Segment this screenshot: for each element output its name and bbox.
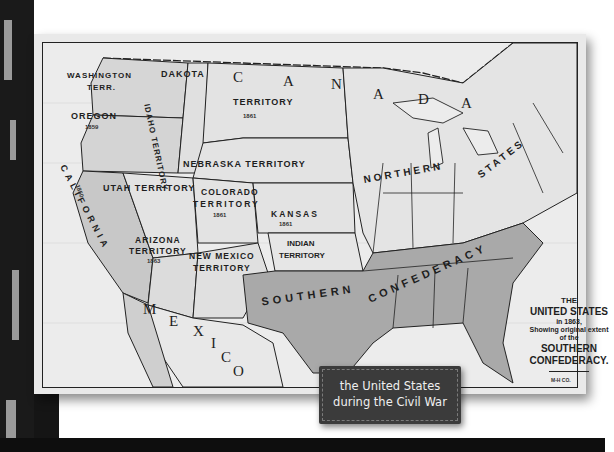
label-colorado: COLORADO — [201, 187, 259, 197]
label-mexico-x: X — [193, 323, 204, 340]
label-kansas: KANSAS — [271, 209, 319, 219]
label-oregon: OREGON — [71, 111, 117, 121]
title-the: THE — [514, 296, 614, 306]
caption-line-1: the United States — [319, 378, 461, 394]
label-canada-n: N — [331, 76, 342, 93]
strip-texture — [12, 270, 19, 340]
title-showing: Showing original extent — [514, 326, 614, 334]
label-arizona-territory: TERRITORY — [129, 246, 187, 256]
year-arizona: 1863 — [147, 258, 160, 264]
label-mexico-e: E — [169, 313, 178, 330]
label-mexico-o: O — [233, 363, 244, 380]
label-mexico-i: I — [211, 335, 216, 352]
label-mexico-m: M — [143, 301, 156, 318]
label-indian-territory: TERRITORY — [279, 251, 325, 260]
year-kansas: 1861 — [279, 221, 292, 227]
label-mexico-c: C — [221, 349, 231, 366]
map-title-block: THE UNITED STATES in 1863, Showing origi… — [514, 296, 614, 372]
label-dakota: DAKOTA — [161, 69, 205, 79]
title-year: in 1863, — [514, 318, 614, 326]
label-canada-a2: A — [373, 86, 384, 103]
strip-texture — [4, 20, 12, 80]
bottom-dark-band — [0, 438, 605, 452]
label-arizona: ARIZONA — [135, 235, 181, 245]
map-card: C A N A D A WASHINGTON TERR. IDAHO TERRI… — [34, 34, 586, 394]
label-canada-c: C — [233, 69, 243, 86]
label-canada-d: D — [418, 91, 429, 108]
year-oregon: 1859 — [85, 124, 98, 130]
label-indian: INDIAN — [287, 239, 315, 248]
strip-texture — [6, 400, 16, 438]
year-colorado: 1861 — [213, 212, 226, 218]
caption-text: the United States during the Civil War — [319, 378, 461, 410]
caption-line-2: during the Civil War — [319, 394, 461, 410]
label-washington-terr: TERR. — [87, 83, 116, 92]
label-dakota-territory: TERRITORY — [233, 97, 294, 107]
title-southern: SOUTHERN — [514, 343, 614, 355]
title-confederacy: CONFEDERACY. — [514, 355, 614, 367]
strip-texture — [10, 120, 16, 160]
label-new-mexico-territory: TERRITORY — [193, 263, 251, 273]
label-nebraska: NEBRASKA TERRITORY — [183, 159, 306, 169]
label-new-mexico: NEW MEXICO — [189, 251, 255, 261]
left-photo-strip — [0, 0, 34, 452]
map-frame: C A N A D A WASHINGTON TERR. IDAHO TERRI… — [42, 42, 578, 388]
caption-tag: the United States during the Civil War — [319, 366, 461, 424]
title-rule — [549, 371, 589, 372]
title-of-the: of the — [514, 334, 614, 342]
year-dakota: 1861 — [243, 113, 256, 119]
label-canada-a3: A — [461, 95, 472, 112]
label-washington: WASHINGTON — [67, 71, 132, 80]
title-united-states: UNITED STATES — [514, 306, 614, 318]
publisher-mark: M-H CO. — [551, 377, 571, 383]
label-canada-a1: A — [283, 73, 294, 90]
label-utah: UTAH TERRITORY — [103, 183, 195, 193]
label-colorado-territory: TERRITORY — [193, 199, 260, 209]
